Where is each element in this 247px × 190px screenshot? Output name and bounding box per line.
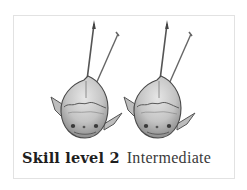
skill-level-caption: Skill level 2Intermediate: [22, 149, 211, 167]
skill-level-label: Skill level 2: [22, 149, 120, 166]
fish-icon-1: [51, 20, 122, 138]
skill-icons: [0, 0, 247, 145]
fish-icon-2: [124, 20, 195, 138]
skill-level-description: Intermediate: [127, 149, 211, 166]
